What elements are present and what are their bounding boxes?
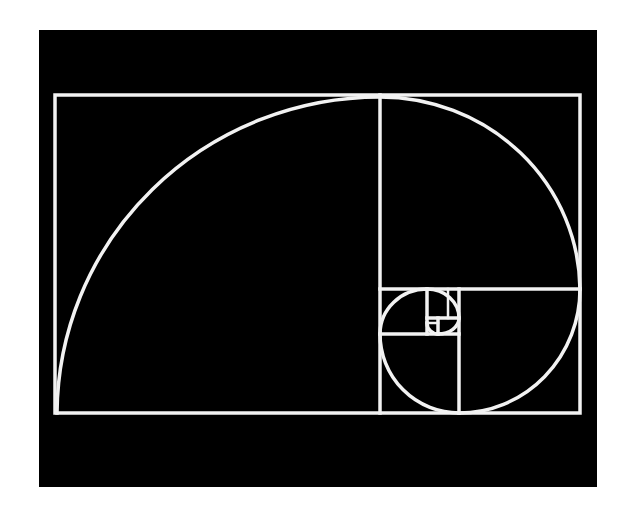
outer-rectangle: [55, 95, 580, 413]
golden-spiral-diagram: [0, 0, 634, 512]
spiral-curve: [57, 97, 580, 413]
